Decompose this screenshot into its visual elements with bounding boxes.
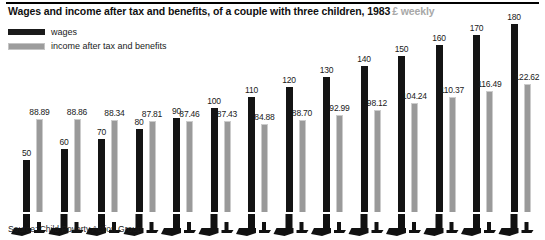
bar-wages[interactable] bbox=[98, 139, 105, 212]
bar-label-income: 88.89 bbox=[29, 107, 49, 117]
bar-label-wages: 120 bbox=[282, 75, 296, 85]
bar-wages[interactable] bbox=[61, 149, 68, 212]
bar-wages[interactable] bbox=[286, 87, 293, 212]
bar-group: 7088.34 bbox=[95, 0, 133, 212]
bar-label-wages: 70 bbox=[97, 127, 106, 137]
bar-income[interactable] bbox=[411, 103, 418, 212]
bar-group: 12088.70 bbox=[283, 0, 321, 212]
bar-label-income: 116.49 bbox=[477, 79, 501, 89]
chart-container: Wages and income after tax and benefits,… bbox=[0, 0, 545, 240]
bar-income[interactable] bbox=[36, 119, 43, 212]
bar-group: 180122.62 bbox=[508, 0, 545, 212]
bar-group: 10087.43 bbox=[208, 0, 246, 212]
bar-label-income: 87.43 bbox=[217, 109, 237, 119]
bar-label-income: 122.62 bbox=[515, 72, 540, 82]
bar-group: 150104.24 bbox=[395, 0, 433, 212]
bar-label-wages: 170 bbox=[470, 23, 484, 33]
bar-label-wages: 60 bbox=[59, 137, 68, 147]
bar-group: 170116.49 bbox=[470, 0, 508, 212]
bar-wages[interactable] bbox=[136, 129, 143, 212]
bar-income[interactable] bbox=[74, 119, 81, 212]
bar-label-income: 88.34 bbox=[104, 108, 124, 118]
bar-wages[interactable] bbox=[436, 45, 443, 212]
bar-wages[interactable] bbox=[173, 118, 180, 212]
bar-label-income: 104.24 bbox=[402, 91, 427, 101]
bar-group: 8087.81 bbox=[133, 0, 171, 212]
bar-group: 9087.46 bbox=[170, 0, 208, 212]
bar-wages[interactable] bbox=[473, 35, 480, 212]
plot-area: 5088.896088.867088.348087.819087.4610087… bbox=[0, 0, 545, 212]
bar-label-wages: 110 bbox=[245, 85, 258, 95]
bar-group: 14098.12 bbox=[358, 0, 396, 212]
bar-label-income: 110.37 bbox=[440, 85, 464, 95]
bar-group: 5088.89 bbox=[20, 0, 58, 212]
bar-income[interactable] bbox=[374, 110, 381, 212]
bar-income[interactable] bbox=[149, 121, 156, 213]
bar-label-income: 92.99 bbox=[329, 103, 349, 113]
bar-label-wages: 160 bbox=[432, 33, 446, 43]
bar-income[interactable] bbox=[449, 97, 456, 212]
bar-label-income: 87.81 bbox=[142, 109, 162, 119]
bar-income[interactable] bbox=[486, 91, 493, 212]
bar-label-income: 84.88 bbox=[254, 112, 274, 122]
bar-income[interactable] bbox=[261, 124, 268, 212]
source-note: Source: Child Poverty Action Group bbox=[8, 224, 142, 234]
bar-income[interactable] bbox=[336, 115, 343, 212]
bar-label-wages: 130 bbox=[320, 65, 334, 75]
bar-label-income: 98.12 bbox=[367, 98, 387, 108]
bar-income[interactable] bbox=[111, 120, 118, 212]
bar-label-wages: 150 bbox=[395, 44, 409, 54]
bar-wages[interactable] bbox=[211, 108, 218, 212]
bar-label-income: 87.46 bbox=[179, 109, 199, 119]
bar-income[interactable] bbox=[524, 84, 531, 212]
bar-group: 6088.86 bbox=[58, 0, 96, 212]
bar-label-wages: 100 bbox=[207, 96, 221, 106]
bar-group: 13092.99 bbox=[320, 0, 358, 212]
bar-income[interactable] bbox=[186, 121, 193, 212]
bar-wages[interactable] bbox=[23, 160, 30, 212]
bar-label-wages: 140 bbox=[357, 54, 371, 64]
bar-wages[interactable] bbox=[398, 56, 405, 212]
bar-label-income: 88.70 bbox=[292, 108, 312, 118]
bar-group: 11084.88 bbox=[245, 0, 283, 212]
bar-income[interactable] bbox=[299, 120, 306, 212]
bar-label-wages: 50 bbox=[22, 148, 31, 158]
bar-wages[interactable] bbox=[511, 24, 518, 212]
bar-income[interactable] bbox=[224, 121, 231, 212]
bar-group: 160110.37 bbox=[433, 0, 471, 212]
bar-wages[interactable] bbox=[323, 77, 330, 212]
bar-label-income: 88.86 bbox=[67, 107, 87, 117]
bar-wages[interactable] bbox=[361, 66, 368, 212]
bar-label-wages: 180 bbox=[507, 12, 521, 22]
